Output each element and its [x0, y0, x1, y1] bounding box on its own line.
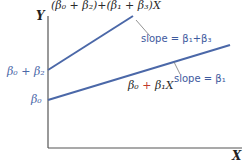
x-axis-label: X	[232, 150, 241, 162]
top-slope-label: slope = β₁+β₃	[141, 33, 212, 45]
bottom-slope-label: slope = β₁	[174, 73, 226, 85]
bottom-eq-a: β₀	[128, 79, 139, 92]
top-regression-line	[48, 16, 133, 70]
bottom-intercept-label: β₀	[31, 94, 42, 106]
y-axis-label: Y	[36, 10, 45, 22]
bottom-eq-plus: +	[139, 79, 155, 92]
top-intercept-label: β₀ + β₂	[7, 66, 45, 78]
bottom-line-equation: β₀ + β₁X	[128, 80, 174, 92]
top-line-equation: (β₀ + β₂)+(β₁ + β₃)X	[51, 0, 161, 12]
bottom-eq-c: β₁X	[155, 79, 174, 92]
